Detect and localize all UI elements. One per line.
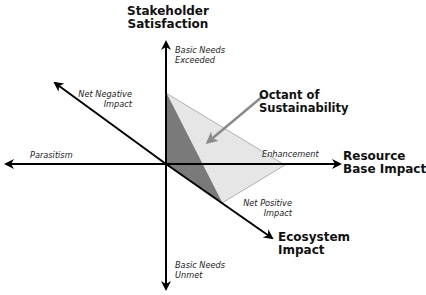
octant-label-line2: Sustainability <box>259 102 349 115</box>
diagonal-axis-title: Ecosystem Impact <box>278 231 350 257</box>
horizontal-axis-title: Resource Base Impact <box>343 150 426 176</box>
net-positive-impact-label: Net Positive Impact <box>232 199 292 218</box>
diagonal-axis-title-line2: Impact <box>278 244 350 257</box>
net-negative-impact-label: Net Negative Impact <box>72 90 132 109</box>
basic-needs-exceeded-label: Basic Needs Exceeded <box>175 46 225 65</box>
basic-needs-unmet-line2: Unmet <box>175 271 225 281</box>
horizontal-axis-title-line2: Base Impact <box>343 163 426 176</box>
parasitism-label: Parasitism <box>30 151 73 161</box>
basic-needs-unmet-label: Basic Needs Unmet <box>175 261 225 280</box>
enhancement-label: Enhancement <box>262 150 319 160</box>
vertical-axis-title: Stakeholder Satisfaction <box>118 5 218 31</box>
net-positive-impact-line2: Impact <box>232 209 292 219</box>
vertical-axis-title-line2: Satisfaction <box>118 18 218 31</box>
net-negative-impact-line2: Impact <box>72 100 132 110</box>
basic-needs-exceeded-line2: Exceeded <box>175 56 225 66</box>
octant-of-sustainability-label: Octant of Sustainability <box>259 89 349 115</box>
